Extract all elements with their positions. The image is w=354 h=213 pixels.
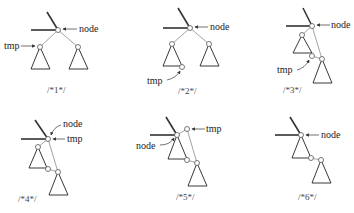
left-subtree [163, 44, 182, 66]
node-label: node [63, 118, 83, 129]
panel-caption: /*1*/ [47, 85, 66, 95]
tmp-label: tmp [206, 123, 222, 134]
node-arrow [51, 125, 61, 135]
child-circle [195, 161, 200, 166]
parent-edge [35, 120, 48, 139]
tmp-label: tmp [4, 40, 20, 51]
node-circle [188, 26, 193, 31]
node-circle [299, 133, 304, 138]
tmp-circle [180, 65, 185, 70]
tree-edge [190, 28, 209, 44]
child-circle [319, 158, 324, 163]
left-subtree [31, 47, 50, 69]
tmp-arrow [297, 60, 309, 70]
tree-rotation-diagram: node tmp /*1*/ node tmp /*2*/ n [0, 0, 354, 213]
node-label: node [331, 19, 351, 30]
tree-edge [58, 30, 78, 47]
child-circle [309, 156, 314, 161]
node-label: node [136, 140, 156, 151]
right-subtree [188, 163, 207, 186]
tmp-circle [185, 127, 190, 132]
node-circle [310, 24, 315, 29]
panel-5: tmp node /*5*/ [136, 117, 222, 202]
panel-caption: /*3*/ [283, 85, 302, 95]
panel-caption: /*6*/ [298, 192, 317, 202]
child-circle [76, 45, 81, 50]
panel-3: node tmp /*3*/ [277, 8, 351, 95]
node-label: node [79, 23, 99, 34]
panel-caption: /*5*/ [176, 192, 195, 202]
child-circle [300, 33, 305, 38]
node-circle [175, 133, 180, 138]
left-subtree [168, 135, 187, 159]
tree-edge [40, 30, 58, 47]
node-label: node [321, 129, 341, 140]
panel-1: node tmp /*1*/ [4, 12, 99, 95]
parent-edge [290, 117, 301, 135]
right-subtree [49, 172, 68, 195]
tmp-label: tmp [277, 64, 293, 75]
panel-4: node tmp /*4*/ [18, 118, 83, 204]
left-subtree [29, 147, 47, 168]
child-circle [56, 170, 61, 175]
node-arrow [160, 138, 174, 145]
parent-edge [166, 117, 177, 135]
parent-edge [47, 12, 58, 30]
node-label: node [210, 21, 230, 32]
tmp-circle [310, 54, 315, 59]
parent-edge [303, 8, 312, 26]
right-subtree [312, 160, 331, 183]
panel-caption: /*2*/ [178, 86, 197, 96]
tree-edge [172, 28, 190, 44]
child-circle [36, 145, 41, 150]
right-subtree [313, 59, 332, 83]
right-subtree [69, 47, 88, 69]
tmp-arrow [167, 71, 180, 80]
child-circle [46, 167, 51, 172]
left-subtree [292, 135, 311, 158]
child-circle [207, 42, 212, 47]
tmp-label: tmp [67, 133, 83, 144]
panel-6: node /*6*/ [275, 117, 341, 202]
parent-edge [178, 8, 190, 28]
node-circle [56, 28, 61, 33]
right-subtree [200, 44, 219, 66]
panel-caption: /*4*/ [18, 194, 37, 204]
tmp-label: tmp [147, 75, 163, 86]
child-circle [320, 57, 325, 62]
panel-2: node tmp /*2*/ [147, 8, 230, 96]
child-circle [185, 158, 190, 163]
child-circle [170, 42, 175, 47]
node-circle [46, 137, 51, 142]
tmp-circle [38, 45, 43, 50]
